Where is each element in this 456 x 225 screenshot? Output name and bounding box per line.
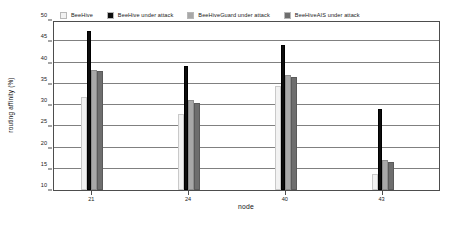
y-tick-mark <box>48 147 52 148</box>
legend-label: BeeHive under attack <box>118 12 173 19</box>
legend-entry: BeeHive <box>60 12 93 19</box>
y-tick-label: 30 <box>17 97 47 103</box>
y-tick-mark <box>48 190 52 191</box>
y-tick-label: 20 <box>17 140 47 146</box>
y-axis-ticks: 101520253035404550 <box>22 21 52 191</box>
y-tick-mark <box>48 83 52 84</box>
plot-area <box>53 21 440 191</box>
bar-chart-figure: BeeHiveBeeHive under attackBeeHiveGuard … <box>0 0 456 225</box>
x-tick-mark <box>285 191 286 195</box>
bar[interactable] <box>97 71 103 190</box>
y-tick-label: 50 <box>17 12 47 18</box>
x-axis-title: node <box>238 203 254 210</box>
x-tick-label: 21 <box>88 196 94 202</box>
bar-group <box>272 22 300 190</box>
x-tick-label: 24 <box>185 196 191 202</box>
x-tick-label: 43 <box>379 196 385 202</box>
y-tick-label: 15 <box>17 161 47 167</box>
x-tick-label: 40 <box>282 196 288 202</box>
legend-entry: BeeHiveAIS under attack <box>284 12 360 19</box>
bars-layer <box>54 22 439 190</box>
y-tick-label: 45 <box>17 33 47 39</box>
y-tick-label: 35 <box>17 76 47 82</box>
y-tick-label: 40 <box>17 55 47 61</box>
bar-group <box>175 22 203 190</box>
x-tick-mark <box>188 191 189 195</box>
legend-swatch-icon <box>60 12 67 19</box>
y-tick-mark <box>48 126 52 127</box>
y-axis-title: routing affinity (%) <box>7 77 14 132</box>
y-tick-mark <box>48 62 52 63</box>
x-tick-mark <box>91 191 92 195</box>
legend-swatch-icon <box>284 12 291 19</box>
legend-swatch-icon <box>187 12 194 19</box>
y-tick-mark <box>48 20 52 21</box>
bar[interactable] <box>194 103 200 190</box>
legend-entry: BeeHiveGuard under attack <box>187 12 270 19</box>
bar-group <box>78 22 106 190</box>
y-tick-mark <box>48 168 52 169</box>
y-tick-label: 10 <box>17 182 47 188</box>
legend-swatch-icon <box>107 12 114 19</box>
legend-label: BeeHiveGuard under attack <box>198 12 270 19</box>
y-tick-mark <box>48 105 52 106</box>
bar[interactable] <box>291 77 297 190</box>
chart-legend: BeeHiveBeeHive under attackBeeHiveGuard … <box>60 8 450 22</box>
legend-label: BeeHive <box>71 12 93 19</box>
legend-label: BeeHiveAIS under attack <box>295 12 360 19</box>
bar[interactable] <box>388 162 394 190</box>
x-tick-mark <box>382 191 383 195</box>
y-tick-label: 25 <box>17 118 47 124</box>
legend-entry: BeeHive under attack <box>107 12 173 19</box>
y-tick-mark <box>48 41 52 42</box>
bar-group <box>369 22 397 190</box>
